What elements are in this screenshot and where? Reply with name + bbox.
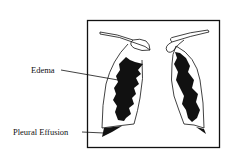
right-edema-region (174, 52, 200, 122)
edema-label: Edema (31, 66, 55, 75)
chest-diagram: Edema Pleural Effusion (0, 0, 232, 159)
right-pleural-effusion (196, 127, 206, 134)
edema-leader-line (61, 70, 118, 80)
effusion-leader-line (82, 132, 104, 133)
pleural-effusion-label: Pleural Effusion (13, 128, 68, 137)
right-clavicle (170, 30, 209, 42)
left-edema-region (113, 57, 143, 121)
